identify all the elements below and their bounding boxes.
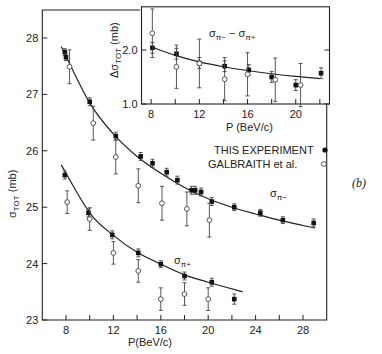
y-tick-label: 1.0 (122, 98, 137, 110)
legend-galbraith: GALBRAITH et al. (208, 158, 297, 170)
data-point-open (206, 297, 211, 302)
data-point-filled (136, 251, 141, 256)
data-point-open (91, 121, 96, 126)
y-tick-label: 28 (26, 32, 38, 44)
data-point-filled (175, 178, 180, 183)
data-point-open (182, 292, 187, 297)
data-point-filled (311, 221, 316, 226)
x-tick-label: 16 (241, 108, 253, 120)
y-tick-label: 25 (26, 201, 38, 213)
y-tick-label: 24 (26, 258, 38, 270)
data-point-filled (110, 233, 115, 238)
x-tick-label: 24 (249, 324, 261, 336)
panel-label: (b) (352, 176, 366, 190)
x-tick-label: 16 (155, 324, 167, 336)
data-point-open (160, 201, 165, 206)
open-marker-icon (322, 162, 327, 167)
x-tick-label: 28 (297, 324, 309, 336)
data-point-open (222, 77, 227, 82)
x-axis-label: P(BeV/c) (128, 336, 172, 348)
y-tick-label: 2.0 (122, 44, 137, 56)
data-point-filled (164, 170, 169, 175)
inset-y-axis-label: ΔσTOT (mb) (108, 22, 123, 78)
data-point-filled (209, 280, 214, 285)
data-point-filled (232, 205, 237, 210)
data-point-filled (199, 190, 204, 195)
data-point-filled (293, 83, 298, 88)
data-point-filled (319, 71, 324, 76)
inset-background (142, 5, 330, 104)
x-tick-label: 8 (63, 324, 69, 336)
inset-x-axis-label: P (BeV/c) (226, 121, 273, 133)
inset-plot: 81216201.02.0P (BeV/c)ΔσTOT (mb)σπ− − σπ… (108, 5, 330, 133)
legend: THIS EXPERIMENT GALBRAITH et al. (208, 144, 328, 170)
data-point-filled (138, 154, 143, 159)
legend-this-experiment: THIS EXPERIMENT (214, 144, 314, 156)
data-point-open (184, 206, 189, 211)
x-tick-label: 12 (193, 108, 205, 120)
data-point-filled (64, 55, 69, 60)
data-point-filled (182, 274, 187, 279)
data-point-filled (281, 218, 286, 223)
data-point-open (136, 269, 141, 274)
fit-curve (61, 165, 242, 292)
data-point-filled (113, 134, 118, 139)
data-point-open (67, 64, 72, 69)
data-point-open (136, 183, 141, 188)
data-point-open (65, 200, 70, 205)
data-point-filled (159, 262, 164, 267)
data-point-open (158, 297, 163, 302)
x-tick-label: 20 (290, 108, 302, 120)
data-point-filled (150, 161, 155, 166)
data-point-filled (193, 188, 198, 193)
annotation-label: σπ− (270, 187, 287, 202)
data-point-open (113, 155, 118, 160)
data-point-filled (258, 211, 263, 216)
data-point-open (245, 72, 250, 77)
data-point-filled (63, 173, 68, 178)
data-point-open (111, 250, 116, 255)
x-tick-label: 8 (148, 108, 154, 120)
data-point-open (197, 61, 202, 66)
x-tick-label: 12 (107, 324, 119, 336)
data-point-open (174, 64, 179, 69)
figure: 81216202428232425262728P(BeV/c)σTOT (mb)… (0, 0, 382, 354)
y-tick-label: 27 (26, 88, 38, 100)
data-point-open (150, 31, 155, 36)
y-axis-label: σTOT (mb) (6, 170, 21, 218)
filled-marker-icon (322, 147, 327, 152)
y-tick-label: 23 (26, 314, 38, 326)
data-point-open (273, 77, 278, 82)
annotation-label: σπ+ (174, 254, 191, 269)
data-point-filled (232, 297, 237, 302)
data-point-open (207, 218, 212, 223)
data-point-open (87, 217, 92, 222)
data-point-filled (87, 99, 92, 104)
data-point-open (298, 83, 303, 88)
y-tick-label: 26 (26, 145, 38, 157)
x-tick-label: 20 (202, 324, 214, 336)
